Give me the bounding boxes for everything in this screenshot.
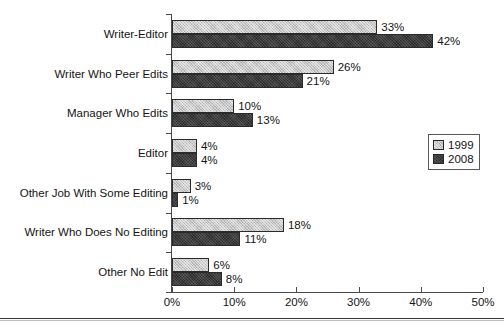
- bar-chart: Writer-EditorWriter Who Peer EditsManage…: [0, 0, 504, 327]
- category-label: Manager Who Edits: [8, 107, 168, 119]
- category-label: Other Job With Some Editing: [8, 187, 168, 199]
- bar-value-label: 33%: [381, 21, 404, 33]
- legend-label-2008: 2008: [448, 153, 474, 165]
- category-axis-bottom-tick: [166, 292, 171, 293]
- category-tick: [166, 173, 171, 174]
- legend: 1999 2008: [428, 134, 480, 170]
- category-axis-top-tick: [166, 14, 171, 15]
- figure-bottom-rule-secondary: [0, 320, 504, 321]
- bar-value-label: 13%: [257, 114, 280, 126]
- bar-value-label: 21%: [307, 75, 330, 87]
- bar-1999-manager-who-edits: [172, 99, 234, 113]
- x-axis-tick-label: 10%: [223, 296, 246, 308]
- x-axis-line: [171, 292, 483, 293]
- legend-swatch-2008: [433, 154, 444, 164]
- y-axis-line: [171, 14, 172, 293]
- bar-value-label: 4%: [201, 154, 218, 166]
- bar-value-label: 26%: [338, 61, 361, 73]
- category-tick: [166, 252, 171, 253]
- x-axis-tick: [483, 287, 484, 292]
- bar-1999-writer-who-does-no-editing: [172, 218, 284, 232]
- x-axis-tick: [296, 287, 297, 292]
- figure-bottom-rule: [0, 318, 504, 319]
- category-label: Writer-Editor: [8, 28, 168, 40]
- bar-2008-other-no-edit: [172, 272, 222, 286]
- bar-1999-other-no-edit: [172, 258, 209, 272]
- category-label: Writer Who Peer Edits: [8, 68, 168, 80]
- bar-1999-writer-who-peer-edits: [172, 60, 334, 74]
- category-label: Editor: [8, 147, 168, 159]
- x-axis-tick-label: 30%: [347, 296, 370, 308]
- bar-value-label: 8%: [226, 273, 243, 285]
- x-axis-tick-label: 50%: [471, 296, 494, 308]
- bar-value-label: 3%: [195, 180, 212, 192]
- bar-2008-writer-who-does-no-editing: [172, 232, 240, 246]
- category-axis-labels: Writer-EditorWriter Who Peer EditsManage…: [4, 0, 168, 327]
- bar-2008-writer-who-peer-edits: [172, 74, 303, 88]
- bar-value-label: 42%: [437, 35, 460, 47]
- bar-2008-editor: [172, 153, 197, 167]
- category-tick: [166, 213, 171, 214]
- bar-1999-other-job-with-some-editing: [172, 179, 191, 193]
- bar-2008-writer-editor: [172, 34, 433, 48]
- x-axis-tick-label: 0%: [164, 296, 181, 308]
- bar-2008-other-job-with-some-editing: [172, 193, 178, 207]
- category-label: Other No Edit: [8, 266, 168, 278]
- legend-item-2008: 2008: [433, 152, 474, 166]
- legend-label-1999: 1999: [448, 139, 474, 151]
- bar-value-label: 11%: [244, 233, 266, 245]
- bar-1999-editor: [172, 139, 197, 153]
- x-axis-tick: [421, 287, 422, 292]
- category-label: Writer Who Does No Editing: [8, 226, 168, 238]
- legend-swatch-1999: [433, 140, 444, 150]
- bar-1999-writer-editor: [172, 20, 377, 34]
- x-axis-tick: [172, 287, 173, 292]
- bar-value-label: 1%: [182, 194, 199, 206]
- x-axis-tick-label: 40%: [409, 296, 432, 308]
- x-axis-tick: [234, 287, 235, 292]
- bar-2008-manager-who-edits: [172, 113, 253, 127]
- category-tick: [166, 93, 171, 94]
- bar-value-label: 18%: [288, 219, 311, 231]
- bar-value-label: 10%: [238, 100, 261, 112]
- bar-value-label: 6%: [213, 259, 230, 271]
- category-tick: [166, 54, 171, 55]
- x-axis-tick: [359, 287, 360, 292]
- category-tick: [166, 133, 171, 134]
- bar-value-label: 4%: [201, 140, 218, 152]
- x-axis-tick-label: 20%: [285, 296, 308, 308]
- legend-item-1999: 1999: [433, 138, 474, 152]
